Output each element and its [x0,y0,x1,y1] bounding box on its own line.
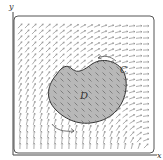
field-arrow [81,48,86,51]
field-arrow [25,71,28,76]
field-arrow [25,30,29,34]
field-arrow [137,132,142,135]
field-arrow [25,66,28,71]
field-arrow [26,77,29,82]
field-arrow [18,60,21,65]
field-arrow [32,48,36,53]
field-arrow [81,54,86,57]
field-arrow [25,42,29,47]
field-arrow [39,78,42,83]
field-arrow [25,48,29,53]
field-arrow [87,37,92,40]
field-arrow [39,42,43,46]
field-arrow [67,60,71,64]
field-arrow [39,54,43,59]
field-arrow [109,120,112,125]
field-arrow [53,48,57,52]
field-arrow [60,48,65,52]
field-arrow [53,54,57,58]
field-arrow [74,42,79,45]
field-arrow [25,36,29,40]
field-arrow [80,25,85,28]
field-arrow [46,66,50,71]
field-arrow [123,108,128,111]
field-arrow [131,137,134,142]
field-arrow [19,77,22,82]
field-arrow [67,24,72,27]
field-arrow [19,71,22,76]
field-arrow [40,83,43,88]
field-arrow [60,24,65,27]
field-arrow [18,42,22,47]
field-arrow [53,60,57,64]
field-arrow [39,60,43,65]
field-arrow [53,42,57,46]
field-arrow [46,42,50,46]
field-arrow [116,114,120,118]
field-arrow [39,36,43,40]
field-arrow [123,126,127,131]
field-arrow [67,48,72,52]
field-arrow [123,120,127,124]
field-arrow [32,24,36,28]
field-arrow [18,30,22,34]
region-label-d: D [79,90,88,101]
field-arrow [33,77,36,82]
field-arrow [53,30,58,34]
field-arrow [46,72,50,77]
field-arrow [60,54,64,58]
field-arrow [74,54,79,58]
field-arrow [137,138,141,142]
field-arrow [73,25,78,28]
field-arrow [53,66,57,71]
field-arrow [46,48,50,52]
curve-label-c: C [120,65,127,75]
field-arrow [39,72,42,77]
field-arrow [46,24,51,28]
field-arrow [116,126,119,131]
field-arrow [87,49,92,52]
field-arrow [130,120,135,123]
field-arrow [88,60,93,63]
field-arrow [67,54,72,58]
field-arrow [81,42,86,45]
field-arrow [60,36,65,40]
field-arrow [32,60,36,65]
field-arrow [40,89,43,94]
field-arrow [39,24,44,28]
field-arrow [32,54,36,59]
field-arrow [25,54,29,59]
field-arrow [60,60,64,64]
field-arrow [18,54,22,59]
field-arrow [74,30,79,33]
field-arrow [32,72,35,77]
field-arrow [74,48,79,52]
field-arrow [87,43,92,46]
field-arrow [25,24,29,28]
field-arrow [46,30,51,34]
field-arrow [123,114,128,118]
field-arrow [123,132,126,137]
field-arrow [46,36,50,40]
field-arrow [130,132,134,136]
y-axis-label: y [8,2,14,11]
vector-field-diagram: y x D C [0,0,163,160]
field-arrow [53,24,58,28]
field-arrow [25,60,28,65]
x-axis-label: x [157,151,162,160]
field-arrow [110,125,113,130]
field-arrow [18,36,22,41]
field-arrow [74,66,78,70]
field-arrow [80,31,85,34]
field-arrow [67,30,72,33]
field-arrow [32,36,36,40]
field-arrow [46,60,50,65]
field-arrow [46,78,49,83]
field-arrow [67,36,72,40]
field-arrow [130,126,135,130]
field-arrow [46,54,50,58]
field-arrow [122,103,127,106]
field-arrow [39,48,43,52]
field-arrow [116,120,120,125]
field-arrow [33,83,36,88]
